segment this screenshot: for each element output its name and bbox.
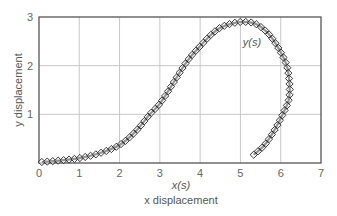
x-tick-label: 5	[237, 167, 243, 179]
grid-lines	[39, 17, 321, 163]
x-tick-label: 0	[36, 167, 42, 179]
parametric-chart: 01234567 123 y(s) x(s) x displacement y …	[0, 0, 337, 216]
x-tick-label: 6	[278, 167, 284, 179]
y-tick-labels: 123	[27, 11, 33, 120]
chart-root: 01234567 123 y(s) x(s) x displacement y …	[0, 0, 337, 216]
x-tick-label: 4	[197, 167, 203, 179]
y-axis-label: y displacement	[12, 53, 24, 126]
y-curve-label: y(s)	[242, 36, 262, 48]
plot-frame	[39, 17, 321, 163]
x-tick-labels: 01234567	[36, 167, 324, 179]
x-tick-label: 7	[318, 167, 324, 179]
y-tick-label: 2	[27, 60, 33, 72]
y-tick-label: 3	[27, 11, 33, 23]
x-axis-label: x displacement	[144, 194, 217, 206]
y-tick-label: 1	[27, 108, 33, 120]
x-tick-label: 1	[76, 167, 82, 179]
x-tick-label: 2	[117, 167, 123, 179]
x-tick-label: 3	[157, 167, 163, 179]
x-curve-label: x(s)	[171, 179, 191, 191]
